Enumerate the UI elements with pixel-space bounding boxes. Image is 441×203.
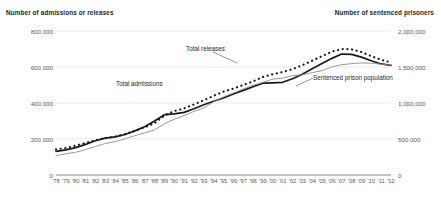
leader-line-prison bbox=[296, 78, 313, 86]
annotation-leader-lines bbox=[0, 0, 441, 203]
leader-line-releases bbox=[213, 52, 237, 63]
series-label-total-admissions: Total admissions bbox=[116, 80, 163, 87]
chart-container: Number of admissions or releases Number … bbox=[0, 0, 441, 203]
series-label-sentenced-prison-population: Sentenced prison population bbox=[313, 74, 393, 81]
series-label-total-releases: Total releases bbox=[186, 45, 225, 52]
